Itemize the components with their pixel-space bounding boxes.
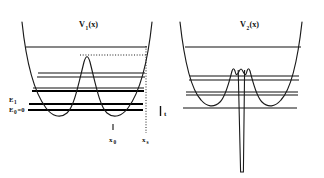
axis-mark-x0: x 0 xyxy=(109,124,117,145)
axis-label-x0-subscript: 0 xyxy=(114,139,117,145)
separator-mark: t xyxy=(161,106,168,118)
energy-label-E1-subscript: 1 xyxy=(14,99,17,105)
separator-label: t xyxy=(164,110,167,118)
central-delta-spike xyxy=(238,70,244,172)
axis-label-xs-main: x xyxy=(142,136,146,144)
panel-right-title-main: V xyxy=(240,20,246,29)
energy-label-E0-suffix: =0 xyxy=(18,106,26,113)
axis-label-xs-subscript: s xyxy=(147,139,149,145)
panel-left-title-argument: (x) xyxy=(89,20,99,29)
energy-label-E0: E 0 =0 xyxy=(9,106,25,115)
double-well-potential-figure: V 1 (x) E 1 xyxy=(0,0,324,178)
panel-right-title: V 2 (x) xyxy=(240,20,259,31)
panel-left-title: V 1 (x) xyxy=(79,20,98,31)
panel-right-title-argument: (x) xyxy=(250,20,260,29)
potential-curve-left xyxy=(22,22,152,116)
axis-mark-xs: x s xyxy=(142,136,149,145)
panel-left-title-main: V xyxy=(79,20,85,29)
potential-curve-right xyxy=(180,22,302,106)
figure-root: V 1 (x) E 1 xyxy=(0,0,324,178)
panel-right: V 2 (x) xyxy=(180,20,302,172)
axis-label-x0-main: x xyxy=(109,136,113,144)
panel-left: V 1 (x) E 1 xyxy=(9,20,152,145)
energy-label-E1: E 1 xyxy=(9,96,17,105)
